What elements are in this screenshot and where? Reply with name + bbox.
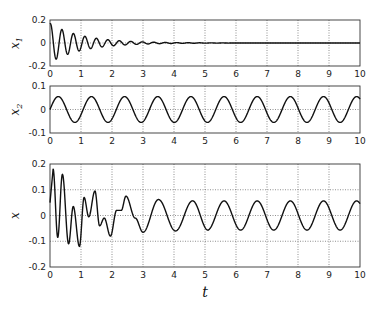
x-tick-label: 2 (109, 69, 115, 79)
y-tick-label: -0.1 (28, 236, 46, 246)
x-tick-label: 8 (295, 270, 301, 280)
x-tick-label: 9 (326, 69, 332, 79)
x-tick-label: 8 (295, 136, 301, 146)
x-tick-label: 0 (47, 270, 53, 280)
plot-x2: 012345678910-0.100.1x2 (8, 81, 366, 146)
x-tick-label: 7 (264, 136, 270, 146)
figure: 012345678910-0.200.2x1 012345678910-0.10… (0, 0, 378, 310)
y-tick-label: 0 (40, 38, 46, 48)
x-tick-label: 6 (233, 69, 239, 79)
x-tick-label: 6 (233, 270, 239, 280)
y-axis-label: x2 (8, 104, 24, 116)
x-axis-label: t (202, 284, 208, 300)
x-tick-label: 2 (109, 270, 115, 280)
x-tick-label: 10 (354, 136, 366, 146)
x-tick-label: 8 (295, 69, 301, 79)
x-tick-label: 0 (47, 69, 53, 79)
x-tick-label: 10 (354, 69, 366, 79)
y-tick-label: 0.1 (32, 81, 46, 91)
x-tick-label: 5 (202, 270, 208, 280)
x-tick-label: 3 (140, 270, 146, 280)
x-tick-label: 4 (171, 270, 177, 280)
x-tick-label: 5 (202, 136, 208, 146)
y-tick-label: -0.2 (28, 61, 46, 71)
x-tick-label: 6 (233, 136, 239, 146)
y-tick-label: -0.2 (28, 262, 46, 272)
x-tick-label: 0 (47, 136, 53, 146)
x-tick-label: 9 (326, 270, 332, 280)
y-axis-label: x (8, 212, 22, 219)
x-tick-label: 4 (171, 69, 177, 79)
x-tick-label: 9 (326, 136, 332, 146)
plot-x: 012345678910-0.2-0.100.10.2x (8, 159, 366, 280)
x-tick-label: 3 (140, 136, 146, 146)
x-tick-label: 1 (78, 69, 84, 79)
x-tick-label: 5 (202, 69, 208, 79)
data-line-x1 (50, 24, 360, 59)
y-tick-label: 0 (40, 105, 46, 115)
x-tick-label: 10 (354, 270, 366, 280)
y-tick-label: 0.2 (32, 159, 46, 169)
x-tick-label: 1 (78, 270, 84, 280)
y-tick-label: 0.2 (32, 15, 46, 25)
x-tick-label: 1 (78, 136, 84, 146)
y-axis-label: x1 (8, 37, 24, 49)
y-tick-label: -0.1 (28, 128, 46, 138)
y-tick-label: 0 (40, 211, 46, 221)
x-tick-label: 7 (264, 69, 270, 79)
x-tick-label: 4 (171, 136, 177, 146)
x-tick-label: 2 (109, 136, 115, 146)
x-tick-label: 3 (140, 69, 146, 79)
plot-x1: 012345678910-0.200.2x1 (8, 15, 366, 79)
y-tick-label: 0.1 (32, 185, 46, 195)
x-tick-label: 7 (264, 270, 270, 280)
